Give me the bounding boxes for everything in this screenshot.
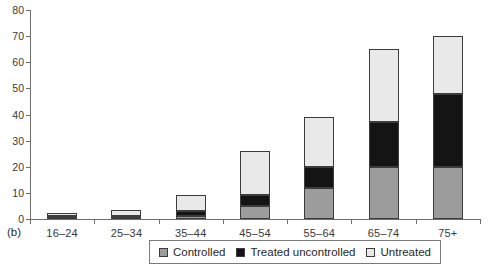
panel-label: (b) [7,226,21,238]
y-axis-tick [26,36,30,37]
y-axis-line [30,10,31,220]
legend-swatch-icon [366,248,375,257]
y-axis-tick [26,115,30,116]
y-tick-label: 80 [0,5,24,15]
y-tick-label: 20 [0,162,24,172]
legend-swatch-icon [159,248,168,257]
y-tick-label: 50 [0,83,24,93]
x-tick-label: 16–24 [30,227,94,239]
y-tick-label: 0 [0,214,24,224]
y-tick-label: 70 [0,31,24,41]
bar-segment-untreated [304,117,334,167]
legend-label: Untreated [380,246,431,258]
bar-segment-treated-uncontrolled [433,94,463,167]
bar-segment-treated-uncontrolled [240,195,270,205]
x-axis-tick [30,220,31,224]
legend-label: Controlled [173,246,225,258]
bar-segment-untreated [240,151,270,195]
y-axis-tick [26,141,30,142]
legend-item: Untreated [366,246,431,258]
x-axis-line [30,219,481,220]
legend-label: Treated uncontrolled [250,246,355,258]
bar-segment-untreated [369,49,399,122]
y-axis-tick [26,10,30,11]
y-axis-tick [26,88,30,89]
legend-swatch-icon [236,248,245,257]
bar-segment-treated-uncontrolled [111,216,141,218]
bar-segment-treated-uncontrolled [47,216,77,218]
y-axis-tick [26,167,30,168]
bar-segment-untreated [176,195,206,211]
bar-segment-untreated [111,210,141,215]
x-tick-label: 65–74 [352,227,416,239]
y-tick-label: 60 [0,57,24,67]
legend-box: ControlledTreated uncontrolledUntreated [149,240,441,264]
bar-segment-controlled [304,188,334,219]
x-axis-tick [287,220,288,224]
x-tick-label: 55–64 [287,227,351,239]
bar-segment-untreated [47,213,77,216]
bar-segment-controlled [433,167,463,219]
bar-segment-controlled [369,167,399,219]
legend-item: Treated uncontrolled [236,246,355,258]
stacked-bar-chart-figure: ControlledTreated uncontrolledUntreated … [0,0,495,270]
x-axis-tick [159,220,160,224]
bar-segment-treated-uncontrolled [369,122,399,166]
bar-segment-treated-uncontrolled [304,167,334,188]
legend-item: Controlled [159,246,225,258]
x-axis-tick [351,220,352,224]
y-tick-label: 30 [0,136,24,146]
bar-segment-controlled [176,216,206,219]
bar-segment-controlled [240,206,270,219]
y-tick-label: 40 [0,110,24,120]
y-tick-label: 10 [0,188,24,198]
bar-segment-untreated [433,36,463,93]
y-axis-tick [26,62,30,63]
x-axis-tick [94,220,95,224]
x-axis-tick [480,220,481,224]
x-tick-label: 35–44 [159,227,223,239]
x-tick-label: 45–54 [223,227,287,239]
bar-segment-treated-uncontrolled [176,211,206,216]
x-axis-tick [223,220,224,224]
y-axis-tick [26,193,30,194]
x-axis-tick [416,220,417,224]
x-tick-label: 25–34 [94,227,158,239]
x-tick-label: 75+ [416,227,480,239]
